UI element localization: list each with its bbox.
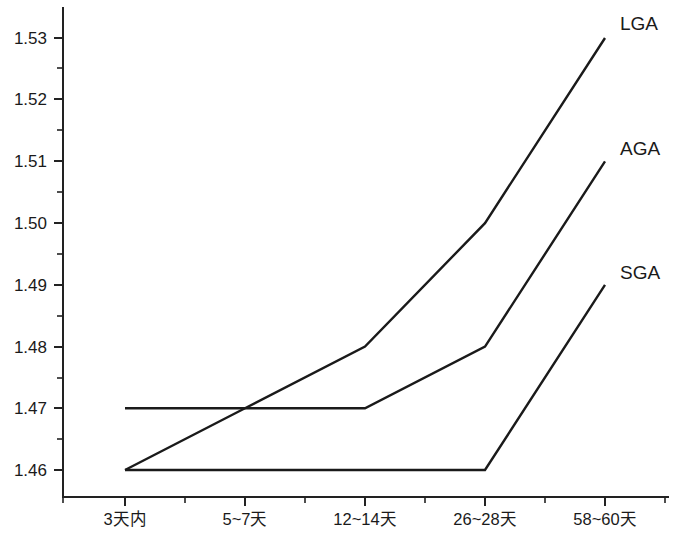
x-tick-label-4: 58~60天 [573,510,636,528]
data-series-group [125,38,605,470]
x-axis-tick-labels: 3天内 5~7天 12~14天 26~28天 58~60天 [103,510,636,528]
y-tick-label-1-46: 1.46 [14,461,47,480]
y-tick-label-1-48: 1.48 [14,338,47,357]
series-label-lga: LGA [620,13,658,34]
series-line-lga [125,38,605,470]
chart-canvas: 1.46 1.47 1.48 1.49 1.50 1.51 1.52 1.53 … [0,0,676,538]
x-tick-label-0: 3天内 [103,510,146,528]
y-tick-label-1-51: 1.51 [14,152,47,171]
x-tick-label-3: 26~28天 [453,510,516,528]
series-line-sga [125,285,605,470]
y-tick-label-1-52: 1.52 [14,90,47,109]
y-tick-label-1-47: 1.47 [14,399,47,418]
x-axis-ticks [63,497,665,506]
y-tick-label-1-53: 1.53 [14,29,47,48]
y-axis-ticks [54,38,63,470]
series-label-aga: AGA [620,138,660,159]
y-tick-label-1-49: 1.49 [14,276,47,295]
series-labels-group: LGA AGA SGA [620,13,660,283]
series-line-aga [125,161,605,408]
line-chart: 1.46 1.47 1.48 1.49 1.50 1.51 1.52 1.53 … [0,0,676,538]
y-tick-label-1-50: 1.50 [14,214,47,233]
y-axis-tick-labels: 1.46 1.47 1.48 1.49 1.50 1.51 1.52 1.53 [14,29,47,480]
x-tick-label-2: 12~14天 [333,510,396,528]
x-tick-label-1: 5~7天 [223,510,268,528]
series-label-sga: SGA [620,262,660,283]
